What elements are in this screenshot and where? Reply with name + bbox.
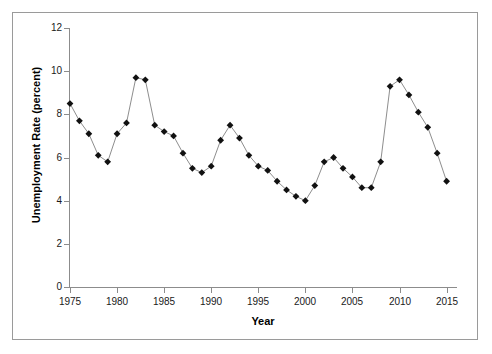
y-tick-label: 4 (56, 196, 62, 206)
y-axis-title: Unemployment Rate (percent) (30, 30, 42, 260)
x-tick-label-wrap: 1975 (50, 296, 90, 308)
y-tick-label: 6 (56, 153, 62, 163)
x-tick-label-wrap: 2015 (427, 296, 467, 308)
x-axis-title: Year (69, 315, 457, 327)
x-tick-mark (211, 288, 212, 293)
x-tick-mark (70, 288, 71, 293)
x-tick-label: 2010 (380, 296, 420, 308)
x-axis-line (69, 287, 457, 288)
x-tick-label-wrap: 2000 (285, 296, 325, 308)
y-tick-mark (64, 201, 69, 202)
x-tick-mark (164, 288, 165, 293)
x-tick-label: 1975 (50, 296, 90, 308)
figure-border (12, 12, 478, 340)
y-tick-mark (64, 158, 69, 159)
y-tick-mark (64, 114, 69, 115)
y-tick-label-wrap: 0 (34, 282, 62, 292)
x-tick-label-wrap: 1995 (238, 296, 278, 308)
x-tick-label: 2005 (332, 296, 372, 308)
y-tick-label: 8 (56, 109, 62, 119)
y-tick-mark (64, 71, 69, 72)
y-tick-label: 2 (56, 239, 62, 249)
y-tick-label: 0 (56, 282, 62, 292)
x-tick-label: 1990 (191, 296, 231, 308)
x-tick-label: 2000 (285, 296, 325, 308)
x-tick-mark (258, 288, 259, 293)
y-tick-mark (64, 287, 69, 288)
x-tick-label: 2015 (427, 296, 467, 308)
y-tick-label: 10 (51, 66, 62, 76)
y-axis-line (69, 28, 70, 287)
x-tick-label-wrap: 1980 (97, 296, 137, 308)
x-tick-mark (117, 288, 118, 293)
x-tick-label-wrap: 1990 (191, 296, 231, 308)
y-tick-label: 12 (51, 23, 62, 33)
x-tick-label-wrap: 2005 (332, 296, 372, 308)
y-tick-mark (64, 28, 69, 29)
x-tick-label-wrap: 1985 (144, 296, 184, 308)
x-tick-mark (305, 288, 306, 293)
x-tick-label-wrap: 2010 (380, 296, 420, 308)
x-tick-label: 1980 (97, 296, 137, 308)
x-tick-mark (447, 288, 448, 293)
chart-figure: 121086420 197519801985199019952000200520… (0, 0, 492, 354)
x-tick-mark (400, 288, 401, 293)
x-tick-label: 1995 (238, 296, 278, 308)
x-tick-label: 1985 (144, 296, 184, 308)
y-tick-mark (64, 244, 69, 245)
x-tick-mark (352, 288, 353, 293)
